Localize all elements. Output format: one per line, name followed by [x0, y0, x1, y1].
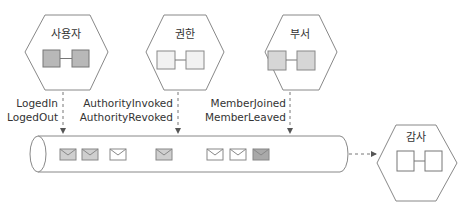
envelope-icon [230, 149, 246, 160]
service-audit: 감사 [377, 125, 457, 201]
component-box-icon [186, 51, 204, 69]
service-department: 부서 [265, 15, 337, 90]
service-authority-title: 권한 [175, 28, 195, 41]
envelope-icon [110, 149, 126, 160]
svg-text:AuthorityRevoked: AuthorityRevoked [80, 111, 173, 123]
service-user: 사용자 [25, 15, 108, 90]
component-box-icon [72, 50, 89, 67]
event-flow-diagram: 사용자 권한 부서 LogedIn LogedOut AuthorityInvo… [0, 0, 474, 206]
envelope-icon [207, 149, 223, 160]
envelope-icon [156, 149, 172, 160]
svg-text:LogedOut: LogedOut [7, 111, 58, 123]
component-box-icon [157, 51, 175, 69]
queue-messages [60, 149, 269, 160]
message-queue [30, 136, 348, 172]
svg-text:LogedIn: LogedIn [16, 97, 58, 109]
svg-text:MemberLeaved: MemberLeaved [205, 111, 286, 123]
event-label-authority: AuthorityInvoked AuthorityRevoked [80, 97, 173, 123]
svg-text:MemberJoined: MemberJoined [211, 97, 286, 109]
service-department-title: 부서 [290, 28, 310, 41]
envelope-icon [60, 149, 76, 160]
service-authority: 권한 [146, 15, 224, 90]
service-user-title: 사용자 [51, 28, 81, 41]
component-box-icon [397, 151, 414, 171]
event-label-department: MemberJoined MemberLeaved [205, 97, 286, 123]
service-audit-title: 감사 [406, 131, 426, 144]
component-box-icon [268, 51, 286, 70]
event-label-user: LogedIn LogedOut [7, 97, 58, 123]
component-box-icon [297, 51, 315, 70]
svg-text:AuthorityInvoked: AuthorityInvoked [83, 97, 173, 109]
component-box-icon [43, 50, 60, 67]
envelope-icon [253, 149, 269, 160]
component-box-icon [425, 151, 442, 171]
envelope-icon [82, 149, 98, 160]
